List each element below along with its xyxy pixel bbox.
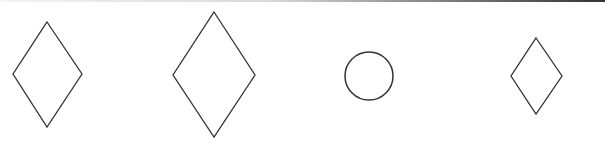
diamond-shape-1: [13, 22, 82, 127]
circle-shape: [345, 52, 393, 100]
shape-sequence: [0, 0, 605, 148]
diamond-shape-2: [173, 12, 255, 137]
diamond-shape-3: [511, 38, 562, 114]
